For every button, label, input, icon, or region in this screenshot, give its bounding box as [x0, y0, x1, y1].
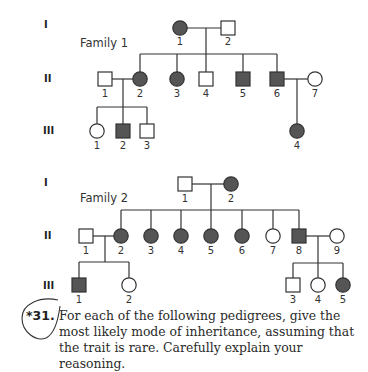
f1-iii-1-id: 1	[89, 140, 105, 151]
f2-ii-8-affected-male	[292, 229, 306, 243]
f1-i-1-affected-female	[173, 21, 187, 35]
f1-ii-2-id: 2	[132, 88, 148, 99]
f2-iii-1-id: 1	[71, 294, 87, 305]
f1-iii-3-id: 3	[139, 140, 155, 151]
f1-ii-1-unaffected-male	[98, 72, 112, 86]
f2-iii-2-unaffected-female	[122, 278, 136, 292]
f2-ii-2-id: 2	[113, 245, 129, 256]
f1-ii-5-id: 5	[235, 88, 251, 99]
f2-i-1-unaffected-male	[178, 177, 192, 191]
f1-ii-5-affected-male	[236, 72, 250, 86]
f1-ii-3-affected-female	[170, 72, 184, 86]
f2-ii-9-unaffected-female	[330, 229, 344, 243]
f2-iii-5-affected-female	[336, 278, 350, 292]
f2-ii-2-affected-female	[114, 229, 128, 243]
f2-iii-3-id: 3	[285, 294, 301, 305]
f2-ii-1-id: 1	[78, 245, 94, 256]
f1-ii-1-id: 1	[97, 88, 113, 99]
f2-ii-9-id: 9	[329, 245, 345, 256]
f2-ii-6-id: 6	[234, 245, 250, 256]
f2-ii-7-unaffected-female	[266, 229, 280, 243]
question-text: For each of the following pedigrees, giv…	[59, 308, 364, 372]
f1-ii-3-id: 3	[169, 88, 185, 99]
f2-iii-1-affected-male	[72, 278, 86, 292]
f1-iii-4-affected-female	[290, 124, 304, 138]
f1-iii-4-id: 4	[289, 140, 305, 151]
f1-iii-3-unaffected-male	[140, 124, 154, 138]
f1-iii-2-id: 2	[115, 140, 131, 151]
f2-iii-2-id: 2	[121, 294, 137, 305]
f2-ii-8-id: 8	[291, 245, 307, 256]
f2-ii-7-id: 7	[265, 245, 281, 256]
f2-ii-4-id: 4	[173, 245, 189, 256]
f1-i-1-id: 1	[172, 36, 188, 47]
f1-ii-4-unaffected-male	[199, 72, 213, 86]
f2-ii-5-affected-female	[204, 229, 218, 243]
f2-i-2-id: 2	[223, 193, 239, 204]
f1-ii-2-affected-female	[133, 72, 147, 86]
f2-i-1-id: 1	[177, 193, 193, 204]
f1-i-2-unaffected-male	[221, 21, 235, 35]
f2-ii-1-unaffected-male	[79, 229, 93, 243]
f1-ii-6-affected-male	[270, 72, 284, 86]
f2-i-2-affected-female	[224, 177, 238, 191]
f1-ii-4-id: 4	[198, 88, 214, 99]
f2-ii-3-id: 3	[143, 245, 159, 256]
question-number: *31.	[26, 308, 55, 323]
f2-iii-5-id: 5	[335, 294, 351, 305]
f2-ii-5-id: 5	[203, 245, 219, 256]
f2-ii-6-affected-female	[235, 229, 249, 243]
f2-ii-3-affected-female	[144, 229, 158, 243]
f1-i-2-id: 2	[220, 36, 236, 47]
f1-iii-1-unaffected-female	[90, 124, 104, 138]
f2-iii-3-unaffected-male	[286, 278, 300, 292]
f1-ii-7-id: 7	[307, 88, 323, 99]
f1-ii-7-unaffected-female	[308, 72, 322, 86]
f1-ii-6-id: 6	[269, 88, 285, 99]
f2-iii-4-unaffected-female	[311, 278, 325, 292]
f2-iii-4-id: 4	[310, 294, 326, 305]
f2-ii-4-affected-female	[174, 229, 188, 243]
f1-iii-2-affected-male	[116, 124, 130, 138]
